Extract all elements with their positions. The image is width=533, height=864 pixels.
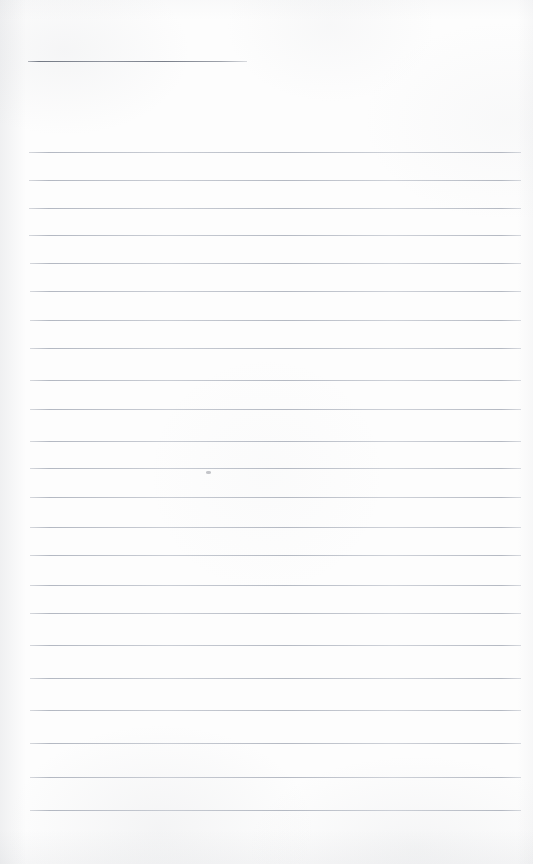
paper-background [0,0,533,864]
rule-6 [30,291,521,292]
rule-23 [30,810,521,811]
rule-1 [29,152,521,153]
rule-11 [30,441,521,442]
rule-7 [30,320,521,321]
rule-2 [29,180,521,181]
rule-15 [30,555,521,556]
rule-21 [30,743,521,744]
rule-8 [30,348,521,349]
rule-18 [30,645,521,646]
rule-9 [30,380,521,381]
rule-12 [30,468,521,469]
rule-22 [30,777,521,778]
header-rule [28,61,247,62]
rule-14 [30,527,521,528]
scanned-page [0,0,533,864]
rule-13 [30,497,521,498]
rule-5 [30,263,521,264]
rule-20 [30,710,521,711]
rule-10 [30,409,521,410]
rule-16 [30,585,521,586]
rule-17 [30,613,521,614]
rule-3 [29,208,521,209]
rule-4 [29,235,521,236]
ink-speck [206,471,211,474]
rule-19 [30,678,521,679]
